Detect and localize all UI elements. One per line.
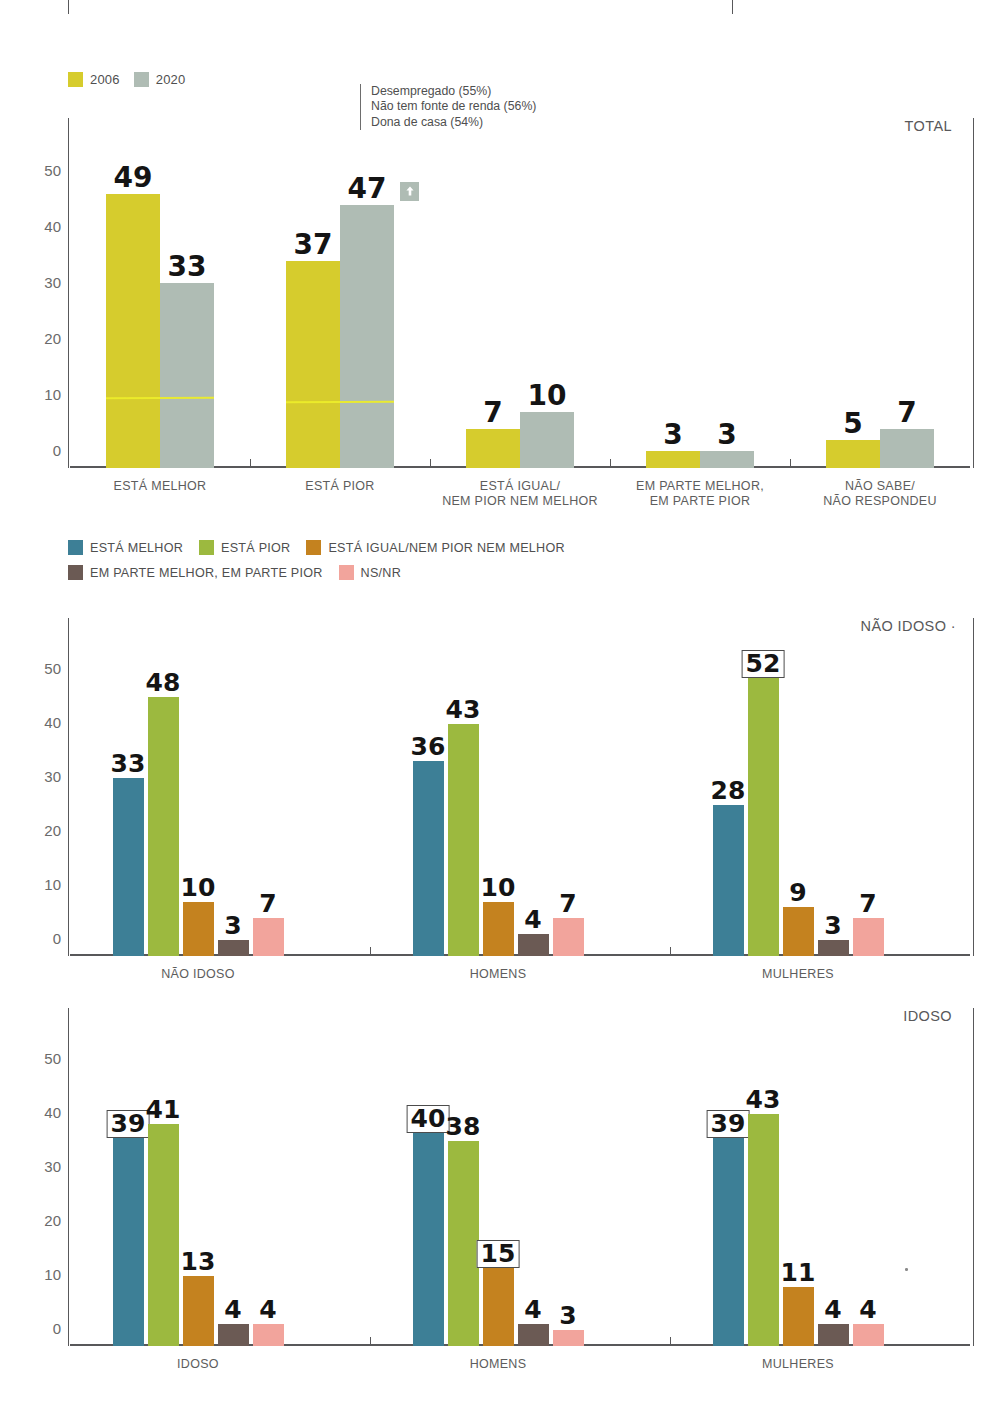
bar-value-label: 10 xyxy=(528,382,567,410)
bar-value-label: 10 xyxy=(181,875,216,900)
bar: 3 xyxy=(818,940,849,956)
bar: 49 xyxy=(106,194,160,468)
y-tick-label: 20 xyxy=(44,822,61,839)
legend-bottom-row-1: ESTÁ MELHORESTÁ PIORESTÁ IGUAL/NEM PIOR … xyxy=(68,540,565,555)
x-group-label-line: MULHERES xyxy=(762,1357,834,1372)
bar: 3 xyxy=(700,451,754,468)
legend-bottom: ESTÁ MELHORESTÁ PIORESTÁ IGUAL/NEM PIOR … xyxy=(68,540,565,590)
bar: 43 xyxy=(748,1114,779,1346)
bar: 7 xyxy=(853,918,884,956)
legend-label: ESTÁ MELHOR xyxy=(90,541,183,555)
legend-item-est-igual-nem-pior-nem-melhor: ESTÁ IGUAL/NEM PIOR NEM MELHOR xyxy=(306,540,564,555)
legend-label: ESTÁ PIOR xyxy=(221,541,290,555)
chart-idoso-right-rule xyxy=(973,1008,974,1346)
x-group-label: HOMENS xyxy=(470,967,527,982)
x-group-label-line: NÃO RESPONDEU xyxy=(823,494,937,509)
legend-label: NS/NR xyxy=(361,566,401,580)
chart-total-right-rule xyxy=(973,118,974,468)
bar: 7 xyxy=(466,429,520,468)
bar-value-label: 33 xyxy=(168,253,207,281)
legend-label: EM PARTE MELHOR, EM PARTE PIOR xyxy=(90,566,323,580)
y-tick-label: 40 xyxy=(44,714,61,731)
bar-value-label: 47 xyxy=(348,175,387,203)
bar-value-label: 7 xyxy=(859,891,876,916)
x-group-label-line: HOMENS xyxy=(470,1357,527,1372)
title-divider-left xyxy=(68,0,69,14)
bar: 3 xyxy=(218,940,249,956)
x-group-label-line: NÃO IDOSO xyxy=(161,967,235,982)
x-group-label: HOMENS xyxy=(470,1357,527,1372)
bar-value-label: 9 xyxy=(789,880,806,905)
bar-value-label: 5 xyxy=(843,410,862,438)
x-axis-tick xyxy=(670,1337,671,1346)
y-tick-label: 20 xyxy=(44,1212,61,1229)
bar: 4 xyxy=(218,1324,249,1346)
y-tick-label: 30 xyxy=(44,768,61,785)
bar-value-label: 40 xyxy=(407,1105,450,1133)
bar: 3 xyxy=(646,451,700,468)
bar: 43 xyxy=(448,724,479,956)
y-tick-label: 10 xyxy=(44,386,61,403)
x-axis-tick xyxy=(430,459,431,468)
bar-value-label: 36 xyxy=(411,734,446,759)
legend-item-em-parte-melhor-em-parte-pior: EM PARTE MELHOR, EM PARTE PIOR xyxy=(68,565,323,580)
bar-value-label: 37 xyxy=(294,231,333,259)
arrow-up-icon xyxy=(400,182,419,201)
x-axis-tick xyxy=(670,947,671,956)
y-tick-label: 10 xyxy=(44,1266,61,1283)
bar-value-label: 39 xyxy=(107,1110,150,1138)
bar-value-label: 43 xyxy=(446,697,481,722)
bar-value-label: 4 xyxy=(524,1297,541,1322)
x-axis-tick xyxy=(370,947,371,956)
bar-value-label: 7 xyxy=(259,891,276,916)
bar-value-label: 3 xyxy=(559,1303,576,1328)
chart-idoso-plot: 0102030405039411344IDOSO40381543HOMENS39… xyxy=(70,1038,970,1346)
chart-nao-idoso: NÃO IDOSO · 0102030405033481037NÃO IDOSO… xyxy=(68,618,974,956)
legend-top: 2006 2020 xyxy=(68,72,185,87)
y-tick-label: 0 xyxy=(53,930,61,947)
chart-total-corner-label: TOTAL xyxy=(905,118,952,134)
bar-value-label: 3 xyxy=(824,913,841,938)
x-group-label: IDOSO xyxy=(177,1357,219,1372)
bar-value-label: 4 xyxy=(259,1297,276,1322)
x-group-label-line: NÃO SABE/ xyxy=(823,479,937,494)
x-group-label: ESTÁ MELHOR xyxy=(114,479,207,494)
legend-label-2020: 2020 xyxy=(156,72,186,87)
x-group-label: NÃO IDOSO xyxy=(161,967,235,982)
legend-swatch xyxy=(199,540,214,555)
bar: 36 xyxy=(413,761,444,956)
bar: 3 xyxy=(553,1330,584,1346)
bar-value-label: 7 xyxy=(559,891,576,916)
x-group-label-line: EM PARTE MELHOR, xyxy=(636,479,764,494)
x-group-label-line: ESTÁ MELHOR xyxy=(114,479,207,494)
bar: 33 xyxy=(160,283,214,468)
bar: 4 xyxy=(518,1324,549,1346)
bar: 5 xyxy=(826,440,880,468)
bar: 9 xyxy=(783,907,814,956)
bar: 38 xyxy=(448,1141,479,1346)
legend-item-ns-nr: NS/NR xyxy=(339,565,401,580)
bar-value-label: 33 xyxy=(111,751,146,776)
legend-swatch xyxy=(306,540,321,555)
legend-item-2006: 2006 xyxy=(68,72,120,87)
title-divider-right xyxy=(732,0,733,14)
bar: 10 xyxy=(483,902,514,956)
bar-value-label: 4 xyxy=(859,1297,876,1322)
bar-value-label: 7 xyxy=(483,399,502,427)
chart-nao-idoso-corner-label: NÃO IDOSO · xyxy=(861,618,956,634)
bar-value-label: 48 xyxy=(146,670,181,695)
legend-item-2020: 2020 xyxy=(134,72,186,87)
x-group-label: ESTÁ IGUAL/NEM PIOR NEM MELHOR xyxy=(442,479,598,509)
y-tick-label: 10 xyxy=(44,876,61,893)
y-tick-label: 40 xyxy=(44,1104,61,1121)
bar: 4 xyxy=(853,1324,884,1346)
x-group-label: NÃO SABE/NÃO RESPONDEU xyxy=(823,479,937,509)
legend-bottom-row-2: EM PARTE MELHOR, EM PARTE PIORNS/NR xyxy=(68,565,565,580)
yellow-overlay-rule xyxy=(286,400,394,403)
legend-swatch-2020 xyxy=(134,72,149,87)
chart-nao-idoso-plot: 0102030405033481037NÃO IDOSO36431047HOME… xyxy=(70,648,970,956)
x-axis-tick xyxy=(370,1337,371,1346)
bar: 39 xyxy=(713,1135,744,1346)
bar-value-label: 10 xyxy=(481,875,516,900)
bar: 41 xyxy=(148,1124,179,1346)
